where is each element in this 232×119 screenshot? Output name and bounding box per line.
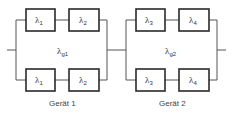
device-1-block-bottom-2: λ2 bbox=[69, 69, 99, 91]
device-1-caption: Gerät 1 bbox=[49, 99, 76, 108]
device-2-block-bottom-1: λ3 bbox=[136, 69, 165, 91]
device-2-block-top-1: λ3 bbox=[136, 9, 165, 31]
device-1-block-top-1: λ1 bbox=[26, 9, 55, 31]
device-2-caption: Gerät 2 bbox=[159, 99, 186, 108]
device-1-block-bottom-1: λ1 bbox=[26, 69, 55, 91]
device-2-block-bottom-2: λ4 bbox=[179, 69, 209, 91]
device-1-total-rate: λg1 bbox=[57, 46, 69, 57]
device-2-block-top-2: λ4 bbox=[179, 9, 209, 31]
device-2-total-rate: λg2 bbox=[165, 46, 177, 57]
reliability-diagram: λ1 λ2 λ1 λ2 λg1 Gerät 1 λ3 λ4 λ3 λ4 λg2 … bbox=[0, 0, 232, 119]
device-1-block-top-2: λ2 bbox=[69, 9, 99, 31]
